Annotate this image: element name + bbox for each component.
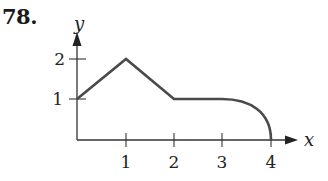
- x-axis-label: x: [304, 129, 314, 150]
- y-axis-arrow-icon: [73, 32, 82, 46]
- x-tick-label-4: 4: [266, 152, 277, 172]
- axes: [77, 44, 288, 140]
- y-tick-label-1: 1: [52, 89, 63, 109]
- x-axis-arrow-icon: [285, 136, 298, 145]
- y-axis-label: y: [73, 13, 85, 34]
- y-tick-label-2: 2: [54, 49, 65, 69]
- function-curve: [77, 59, 271, 140]
- x-tick-label-1: 1: [121, 152, 132, 172]
- x-tick-label-2: 2: [169, 152, 180, 172]
- x-tick-label-3: 3: [217, 152, 228, 172]
- function-graph: 1 2 3 4 1 2 x y: [0, 0, 328, 181]
